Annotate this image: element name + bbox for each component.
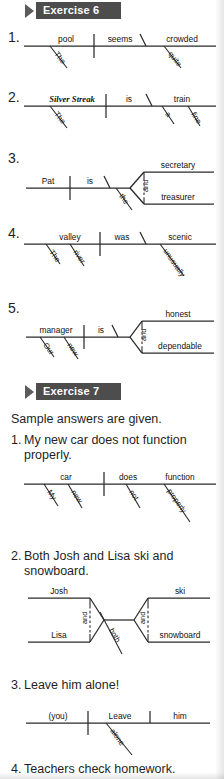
diagram-ex6-3: Pat is secretary treasurer the and [22, 156, 218, 218]
diagram-modifier: the [117, 192, 130, 206]
diagram-modifier: new [69, 488, 85, 505]
diagram-word: him [173, 711, 187, 721]
diagram-ex6-5: manager is honest dependable Our new and [22, 305, 218, 367]
diagram-word: snowboard [160, 630, 201, 640]
diagram-word: ski [175, 586, 185, 596]
diagram-word: dependable [158, 341, 202, 351]
diagram-word: Lisa [51, 630, 67, 640]
item-text-line-1: My new car does not function [24, 433, 211, 448]
item-number: 2. [11, 549, 21, 564]
diagram-word: Josh [50, 586, 68, 596]
sample-answers-note: Sample answers are given. [11, 412, 162, 427]
diagram-word: was [114, 232, 130, 242]
exercise-7-item-3: 3. Leave him alone! [11, 678, 211, 693]
diagram-word: secretary [161, 160, 196, 170]
diagram-ex7-2: Josh Lisa ski snowboard and and both [24, 586, 214, 664]
item-text-line-1: Teachers check homework. [24, 762, 211, 777]
diagram-word: Pat [42, 176, 55, 186]
exercise-7-item-4: 4. Teachers check homework. [11, 762, 211, 777]
diagram-ex7-1: car does function My new not properly [22, 466, 218, 536]
exercise-6-item-1-number: 1. [8, 29, 20, 45]
diagram-modifier: new [65, 341, 81, 358]
diagram-conjunction: and [139, 329, 148, 341]
item-text-line-2: properly. [24, 448, 211, 463]
diagram-modifier: river [71, 248, 87, 266]
diagram-word: is [126, 94, 132, 104]
exercise-7-badge-label: Exercise 7 [36, 383, 121, 400]
diagram-modifier: The [47, 248, 62, 264]
diagram-word: (you) [48, 711, 67, 721]
exercise-7-item-1: 1. My new car does not function properly… [11, 433, 211, 462]
diagram-word: Silver Streak [49, 94, 95, 104]
diagram-modifier: quite [166, 50, 183, 69]
diagram-modifier: unusually [161, 247, 187, 279]
diagram-modifier: a [163, 110, 173, 119]
diagram-word: function [165, 472, 195, 482]
exercise-6-item-2-number: 2. [8, 89, 20, 105]
diagram-conjunction: and [141, 180, 150, 192]
exercise-6-item-4-number: 4. [8, 225, 20, 241]
diagram-word: is [87, 176, 93, 186]
diagram-modifier: properly [165, 487, 188, 515]
diagram-word: treasurer [161, 192, 195, 202]
item-number: 4. [11, 762, 21, 777]
diagram-word: crowded [166, 34, 198, 44]
triangle-arrow-icon [25, 385, 34, 399]
diagram-conjunction: and [138, 612, 147, 624]
diagram-word: pool [58, 34, 74, 44]
diagram-ex6-1: pool seems crowded The quite [22, 28, 218, 76]
diagram-ex6-2: Silver Streak is train The a fine [22, 88, 218, 136]
diagram-word: valley [59, 232, 81, 242]
diagram-word: Leave [109, 711, 132, 721]
exercise-7-item-2: 2. Both Josh and Lisa ski and snowboard. [11, 549, 211, 578]
diagram-word: manager [39, 325, 72, 335]
exercise-6-header: Exercise 6 [25, 2, 121, 19]
diagram-word: honest [165, 309, 191, 319]
triangle-arrow-icon [25, 4, 34, 18]
item-number: 3. [11, 678, 21, 693]
item-text-line-1: Both Josh and Lisa ski and [24, 549, 211, 564]
exercise-6-badge-label: Exercise 6 [36, 2, 121, 19]
diagram-word: train [174, 94, 191, 104]
diagram-modifier: both [107, 627, 122, 644]
diagram-word: scenic [168, 232, 192, 242]
diagram-ex6-4: valley was scenic The river unusually [22, 226, 218, 284]
diagram-conjunction: and [80, 612, 89, 624]
diagram-modifier: Our [41, 341, 56, 357]
exercise-6-item-3-number: 3. [8, 150, 20, 166]
exercise-7-header: Exercise 7 [25, 383, 121, 400]
diagram-word: is [98, 325, 104, 335]
item-text-line-1: Leave him alone! [24, 678, 211, 693]
item-text-line-2: snowboard. [24, 564, 211, 579]
textbook-page: Exercise 6 1. pool seems crowded The qui… [0, 0, 224, 779]
diagram-word: seems [108, 34, 133, 44]
item-number: 1. [11, 433, 21, 448]
exercise-6-item-5-number: 5. [8, 300, 20, 316]
diagram-ex7-3: (you) Leave him alone [22, 705, 218, 761]
diagram-word: car [60, 472, 72, 482]
diagram-word: does [119, 472, 137, 482]
